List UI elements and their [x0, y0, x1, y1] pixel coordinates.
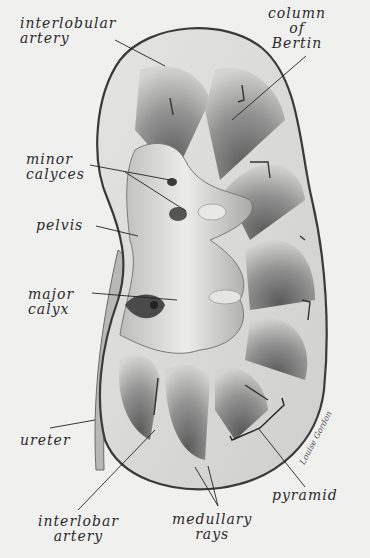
label-interlobar-artery: interlobar artery: [38, 514, 119, 544]
kidney-illustration: [0, 0, 370, 558]
label-major-calyx: major calyx: [28, 287, 74, 317]
label-ureter: ureter: [20, 433, 71, 448]
label-medullary-rays: medullary rays: [172, 512, 252, 542]
label-minor-calyces: minor calyces: [26, 152, 85, 182]
label-interlobular-artery: interlobular artery: [20, 16, 117, 46]
label-pyramid: pyramid: [272, 488, 338, 503]
kidney-diagram: interlobular artery column of Bertin min…: [0, 0, 370, 558]
label-pelvis: pelvis: [36, 218, 83, 233]
label-column-of-bertin: column of Bertin: [268, 6, 326, 51]
